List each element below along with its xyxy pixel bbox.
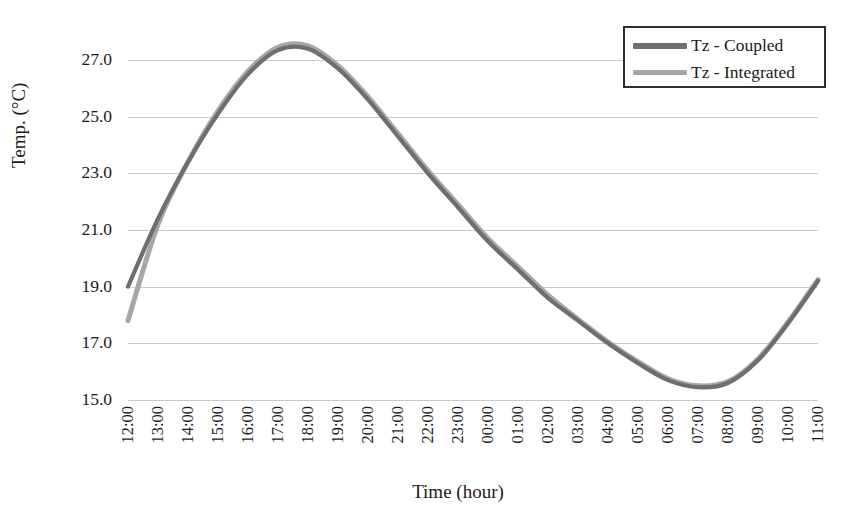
x-tick-label-2000: 20:00 — [358, 406, 378, 444]
x-tick-label-0900: 09:00 — [748, 406, 768, 444]
legend-item-integrated: Tz - Integrated — [633, 59, 816, 86]
x-tick-label-0600: 06:00 — [658, 406, 678, 444]
x-tick-label-1800: 18:00 — [298, 406, 318, 444]
x-tick-label-2200: 22:00 — [418, 406, 438, 444]
x-tick-label-0200: 02:00 — [538, 406, 558, 444]
x-tick-label-1400: 14:00 — [178, 406, 198, 444]
chart-figure: Temp. (°C) 27.025.023.021.019.017.015.0 … — [0, 0, 856, 526]
x-tick-label-0100: 01:00 — [508, 406, 528, 444]
x-tick-label-2300: 23:00 — [448, 406, 468, 444]
gridline-15 — [128, 400, 818, 401]
x-tick-label-1100: 11:00 — [808, 406, 828, 443]
y-tick-label-27-0: 27.0 — [46, 49, 112, 70]
y-tick-label-23-0: 23.0 — [46, 162, 112, 183]
x-tick-label-0000: 00:00 — [478, 406, 498, 444]
x-tick-label-0700: 07:00 — [688, 406, 708, 444]
x-tick-label-1300: 13:00 — [148, 406, 168, 444]
x-tick-label-0800: 08:00 — [718, 406, 738, 444]
x-tick-label-2100: 21:00 — [388, 406, 408, 444]
y-tick-label-21-0: 21.0 — [46, 219, 112, 240]
x-tick-label-0500: 05:00 — [628, 406, 648, 444]
x-tick-label-1900: 19:00 — [328, 406, 348, 444]
series-line-tz-coupled — [128, 47, 818, 388]
legend-label-integrated: Tz - Integrated — [691, 64, 795, 82]
x-axis-title: Time (hour) — [0, 481, 856, 503]
x-tick-label-1200: 12:00 — [118, 406, 138, 444]
series-curves — [128, 60, 818, 400]
y-tick-label-17-0: 17.0 — [46, 332, 112, 353]
x-tick-label-0400: 04:00 — [598, 406, 618, 444]
y-tick-label-25-0: 25.0 — [46, 106, 112, 127]
x-tick-label-0300: 03:00 — [568, 406, 588, 444]
x-tick-label-1600: 16:00 — [238, 406, 258, 444]
y-axis-title: Temp. (°C) — [8, 83, 30, 168]
y-tick-label-19-0: 19.0 — [46, 276, 112, 297]
legend-label-coupled: Tz - Coupled — [691, 37, 783, 55]
y-tick-label-15-0: 15.0 — [46, 389, 112, 410]
x-tick-label-1500: 15:00 — [208, 406, 228, 444]
chart-legend: Tz - Coupled Tz - Integrated — [623, 26, 826, 88]
legend-swatch-integrated — [633, 70, 687, 75]
legend-item-coupled: Tz - Coupled — [633, 32, 816, 59]
x-axis-title-text: Time (hour) — [412, 481, 504, 502]
plot-area — [128, 60, 818, 400]
x-tick-label-1000: 10:00 — [778, 406, 798, 444]
legend-swatch-coupled — [633, 43, 687, 49]
x-tick-label-1700: 17:00 — [268, 406, 288, 444]
